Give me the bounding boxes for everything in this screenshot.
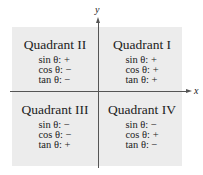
quadrant-iii: Quadrant III sin θ: − cos θ: − tan θ: +	[12, 102, 98, 152]
quadrant-title: Quadrant III	[12, 102, 98, 117]
quadrant-title: Quadrant I	[99, 37, 185, 52]
x-axis	[10, 91, 188, 92]
quadrant-iv: Quadrant IV sin θ: − cos θ: + tan θ: −	[99, 102, 185, 152]
tan-sign: tan θ: +	[125, 75, 158, 85]
tan-sign: tan θ: −	[38, 75, 71, 85]
tan-sign: tan θ: −	[125, 140, 158, 150]
y-axis-arrow-icon	[96, 17, 100, 23]
quadrant-title: Quadrant II	[12, 37, 98, 52]
y-axis-label: y	[95, 5, 99, 15]
tan-sign: tan θ: +	[38, 140, 71, 150]
quadrant-title: Quadrant IV	[99, 102, 185, 117]
quadrant-i: Quadrant I sin θ: + cos θ: + tan θ: +	[99, 37, 185, 87]
x-axis-label: x	[194, 86, 198, 96]
x-axis-arrow-icon	[186, 89, 192, 93]
quadrant-ii: Quadrant II sin θ: + cos θ: − tan θ: −	[12, 37, 98, 87]
